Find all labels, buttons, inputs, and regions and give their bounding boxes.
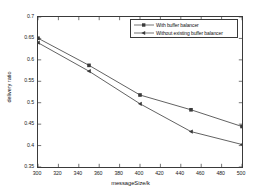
legend-marker-triangle-icon bbox=[133, 29, 155, 37]
legend-marker-square-icon bbox=[133, 21, 155, 29]
y-tick-label: 0.35 bbox=[4, 163, 34, 169]
legend-label: With buffer balancer bbox=[156, 22, 199, 28]
plot-area bbox=[37, 16, 243, 168]
chart-figure: 0.350.40.450.50.550.60.650.7 30032034036… bbox=[0, 0, 261, 196]
plot-canvas bbox=[38, 17, 242, 167]
legend-item-without-existing-buffer-balancer: Without existing buffer balancer bbox=[133, 29, 235, 37]
x-tick-label: 500 bbox=[229, 170, 253, 176]
y-tick-label: 0.65 bbox=[4, 34, 34, 40]
y-tick-label: 0.4 bbox=[4, 142, 34, 148]
y-tick-label: 0.45 bbox=[4, 120, 34, 126]
legend-label: Without existing buffer balancer bbox=[156, 30, 223, 36]
chart-legend: With buffer balancer Without existing bu… bbox=[130, 19, 238, 38]
legend-item-with-buffer-balancer: With buffer balancer bbox=[133, 21, 235, 29]
y-tick-label: 0.7 bbox=[4, 13, 34, 19]
y-axis-label: delivery ratio bbox=[6, 56, 12, 118]
x-axis-label: messageSize/k bbox=[0, 180, 261, 186]
